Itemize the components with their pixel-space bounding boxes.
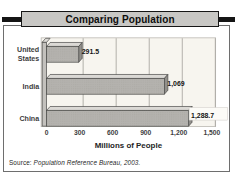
chart-title-plate: Comparing Population xyxy=(21,11,219,27)
category-label-china: China xyxy=(19,115,39,123)
value-label-china: 1,288.7 xyxy=(191,112,214,120)
x-tick-900: 900 xyxy=(140,129,152,136)
chart-title: Comparing Population xyxy=(65,14,174,25)
title-rule-right xyxy=(217,17,235,22)
value-label-india: 1,069 xyxy=(167,80,184,88)
category-label-india: India xyxy=(23,83,40,91)
bar-china xyxy=(47,106,192,126)
category-label-united-states: UnitedStates xyxy=(17,46,39,63)
bar-india xyxy=(47,74,168,94)
chart-frame: 291.5UnitedStates1,069India1,288.7China0… xyxy=(3,25,230,172)
bar-united-states xyxy=(47,42,83,62)
source-note: Source: Population Reference Bureau, 200… xyxy=(9,159,140,166)
x-tick-600: 600 xyxy=(107,129,119,136)
x-tick-1500: 1,500 xyxy=(203,129,220,137)
x-tick-300: 300 xyxy=(74,129,86,136)
value-label-united-states: 291.5 xyxy=(82,48,99,55)
source-citation: Population Reference Bureau, 2003. xyxy=(34,159,141,166)
source-prefix: Source: xyxy=(9,159,34,166)
title-rule-left xyxy=(2,17,22,22)
x-axis-title: Millions of People xyxy=(95,141,163,150)
x-tick-1200: 1,200 xyxy=(170,129,187,137)
population-bar-chart: 291.5UnitedStates1,069India1,288.7China0… xyxy=(4,26,229,171)
x-tick-0: 0 xyxy=(45,129,49,136)
worksheet-figure: Comparing Population 291.5UnitedStates1,… xyxy=(0,0,237,183)
